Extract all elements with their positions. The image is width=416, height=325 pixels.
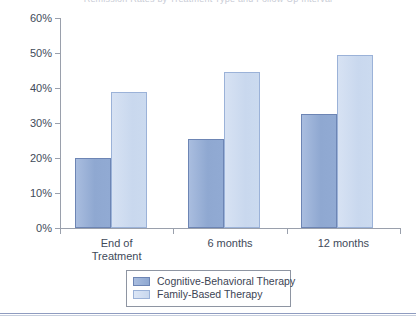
bar-cbt	[301, 114, 337, 228]
y-axis-tick-label: 30%	[30, 118, 52, 129]
chart-title-text: Remission Rates by Treatment Type and Fo…	[84, 0, 333, 4]
y-axis-tick	[55, 53, 60, 54]
legend-label-fbt: Family-Based Therapy	[157, 289, 262, 300]
chart-title-cutoff: Remission Rates by Treatment Type and Fo…	[0, 0, 416, 7]
legend-swatch-cbt-icon	[133, 277, 150, 286]
bar-cbt	[188, 139, 224, 228]
bar-fbt	[224, 72, 260, 228]
y-axis-tick-label: 20%	[30, 153, 52, 164]
chart-figure: Remission Rates by Treatment Type and Fo…	[0, 0, 416, 325]
y-axis-line	[60, 18, 61, 229]
x-axis-label-line: 12 months	[318, 237, 369, 250]
x-axis-tick	[173, 228, 174, 234]
y-axis-tick	[55, 88, 60, 89]
x-axis-tick	[60, 228, 61, 234]
legend-label-cbt: Cognitive-Behavioral Therapy	[157, 276, 295, 287]
x-axis-line	[60, 228, 401, 229]
x-axis-tick	[287, 228, 288, 234]
y-axis-tick	[55, 158, 60, 159]
x-axis-category-label: 6 months	[207, 237, 252, 250]
y-axis-tick	[55, 18, 60, 19]
plot-area: 0%10%20%30%40%50%60% End ofTreatment6 mo…	[60, 18, 400, 228]
y-axis-tick	[55, 193, 60, 194]
legend-item-cbt: Cognitive-Behavioral Therapy	[133, 275, 284, 288]
bar-cbt	[75, 158, 111, 228]
y-axis-tick	[55, 123, 60, 124]
x-axis-tick	[400, 228, 401, 234]
y-axis-tick-label: 50%	[30, 48, 52, 59]
bar-fbt	[111, 92, 147, 229]
x-axis-label-line: End of	[92, 237, 142, 250]
x-axis-category-label: 12 months	[318, 237, 369, 250]
y-axis-tick-label: 10%	[30, 188, 52, 199]
y-axis-tick-label: 40%	[30, 83, 52, 94]
legend-swatch-fbt-icon	[133, 290, 150, 299]
footer-divider	[0, 313, 416, 314]
x-axis-category-label: End ofTreatment	[92, 237, 142, 263]
chart-legend: Cognitive-Behavioral Therapy Family-Base…	[126, 270, 291, 307]
x-axis-label-line: Treatment	[92, 250, 142, 263]
y-axis-tick-label: 0%	[36, 223, 52, 234]
footer-divider-secondary	[0, 315, 416, 316]
y-axis-tick-label: 60%	[30, 13, 52, 24]
x-axis-label-line: 6 months	[207, 237, 252, 250]
legend-item-fbt: Family-Based Therapy	[133, 288, 284, 301]
bar-fbt	[337, 55, 373, 228]
